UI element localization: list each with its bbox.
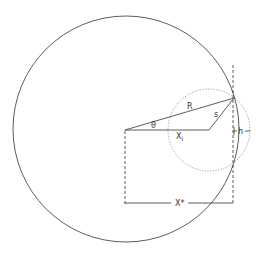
x-star-label: X* [175, 199, 184, 208]
s-line [209, 98, 234, 130]
x-i-label: Xi [176, 132, 183, 142]
r-label: R [187, 102, 193, 111]
geometry-diagram: X* h R θ s Xi [0, 0, 259, 255]
x-i-subscript: i [181, 135, 183, 142]
h-label: h [238, 127, 243, 136]
s-label: s [214, 110, 218, 119]
large-circle [13, 16, 239, 242]
theta-label: θ [151, 121, 156, 130]
